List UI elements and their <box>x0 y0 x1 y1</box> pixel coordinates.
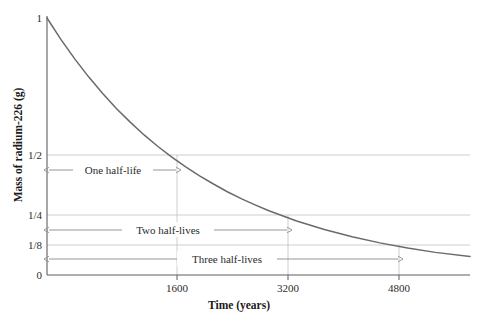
y-label-eighth: 1/8 <box>28 239 43 251</box>
annotation-three-label: Three half-lives <box>192 253 262 265</box>
x-label-3200: 3200 <box>277 282 300 294</box>
y-axis-labels: 1 1/2 1/4 1/8 0 <box>28 12 43 281</box>
y-label-quarter: 1/4 <box>28 209 43 221</box>
decay-curve-figure: 1 1/2 1/4 1/8 0 1600 3200 4800 One half-… <box>0 0 483 323</box>
x-label-4800: 4800 <box>388 282 411 294</box>
x-axis-ticks <box>177 275 399 280</box>
y-label-one: 1 <box>37 12 43 24</box>
y-label-zero: 0 <box>37 269 43 281</box>
y-label-half: 1/2 <box>28 149 42 161</box>
annotation-three-half-lives: Three half-lives <box>49 251 398 266</box>
annotation-one-half-life: One half-life <box>49 162 176 177</box>
x-label-1600: 1600 <box>166 282 189 294</box>
annotation-two-half-lives: Two half-lives <box>49 222 287 237</box>
decay-curve <box>47 18 470 257</box>
y-axis-title: Mass of radium-226 (g) <box>12 87 25 202</box>
x-axis-title: Time (years) <box>208 299 270 312</box>
annotation-one-label: One half-life <box>85 164 142 176</box>
axes <box>47 16 470 275</box>
annotation-two-label: Two half-lives <box>136 224 200 236</box>
x-axis-labels: 1600 3200 4800 <box>166 282 411 294</box>
